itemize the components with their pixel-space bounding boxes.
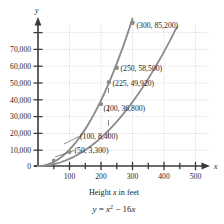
data-point-100[interactable]	[68, 150, 72, 154]
point-label-100: (100, 8,400)	[80, 132, 118, 141]
equation-x2: x	[131, 204, 136, 214]
point-label-225: (225, 49,920)	[113, 79, 155, 88]
ytick-label-20000: 20,000	[10, 129, 31, 138]
xtick-label-400: 400	[158, 172, 170, 181]
point-label-300: (300, 85,200)	[137, 21, 179, 30]
caption-suffix: in feet	[117, 188, 140, 197]
data-point-50[interactable]	[52, 159, 56, 163]
x-axis	[34, 163, 210, 170]
equation-operator: − 16	[113, 204, 132, 214]
point-label-200: (200, 36,800)	[104, 104, 146, 113]
parabola-curve-main	[38, 19, 133, 166]
plot-area: 0 10,000 20,000 30,000 40,000 50,000 60,…	[0, 0, 224, 224]
equation-equals: =	[96, 204, 106, 214]
figure-caption: Height x in feet	[89, 188, 140, 197]
data-point-markers	[52, 20, 135, 162]
vertical-gridlines	[70, 24, 196, 166]
ytick-label-0: 0	[27, 162, 31, 171]
figure-container: 0 10,000 20,000 30,000 40,000 50,000 60,…	[0, 0, 224, 224]
y-axis	[35, 17, 42, 166]
x-axis-arrowhead	[202, 163, 211, 170]
xtick-label-300: 300	[127, 172, 139, 181]
caption-prefix: Height	[89, 188, 113, 197]
data-point-225[interactable]	[107, 80, 111, 84]
data-point-300[interactable]	[130, 20, 135, 25]
data-point-250[interactable]	[115, 66, 119, 70]
figure-equation: y = x2 − 16x	[91, 204, 135, 214]
x-axis-label: x	[213, 162, 218, 171]
horizontal-gridlines	[38, 33, 210, 151]
xtick-label-200: 200	[95, 172, 107, 181]
y-axis-arrowhead	[35, 17, 42, 26]
point-label-50: (50, 3,300)	[75, 146, 109, 155]
ytick-label-50000: 50,000	[10, 79, 31, 88]
ytick-label-70000: 70,000	[10, 45, 31, 54]
xtick-label-100: 100	[64, 172, 76, 181]
ytick-label-60000: 60,000	[10, 62, 31, 71]
y-axis-label: y	[34, 6, 39, 15]
point-label-250: (250, 58,500)	[121, 64, 163, 73]
xtick-label-500: 500	[190, 172, 202, 181]
ytick-label-40000: 40,000	[10, 96, 31, 105]
ytick-label-10000: 10,000	[10, 146, 31, 155]
ytick-label-30000: 30,000	[10, 112, 31, 121]
